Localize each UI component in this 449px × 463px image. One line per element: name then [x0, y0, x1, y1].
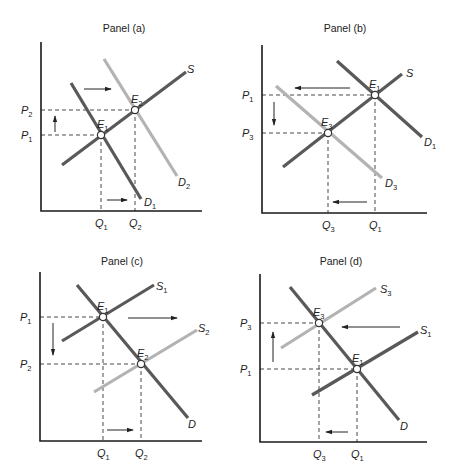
price-label: P2 [21, 104, 33, 119]
price-label: P3 [240, 317, 252, 332]
axes [40, 272, 202, 441]
price-label: P1 [240, 363, 252, 378]
price-label: P2 [20, 358, 32, 373]
quantity-label: Q2 [135, 447, 148, 462]
quantity-label: Q1 [351, 448, 364, 463]
curve-s1 [312, 332, 418, 395]
curve-label-s1: S1 [420, 324, 432, 339]
panel-c: Panel (c)S1S2DE1E2P1P2Q1Q2 [20, 255, 210, 462]
panel-title: Panel (c) [101, 255, 143, 267]
curve-label-d2: D2 [178, 176, 190, 191]
quantity-label: Q3 [322, 219, 335, 234]
quantity-label: Q3 [313, 448, 326, 463]
price-label: P1 [21, 129, 33, 144]
panel-a: Panel (a)SD1D2E1E2P2P1Q1Q2 [21, 22, 202, 232]
curve-s3 [281, 288, 376, 348]
panel-title: Panel (b) [324, 22, 367, 34]
price-label: P1 [242, 89, 254, 104]
quantity-label: Q1 [97, 447, 110, 462]
supply-demand-figure: Panel (a)SD1D2E1E2P2P1Q1Q2Panel (b)SD1D3… [0, 0, 449, 463]
curve-label-d1: D1 [144, 196, 156, 211]
curve-label-d1: D1 [424, 136, 436, 151]
curve-label-d: D [188, 418, 196, 430]
curve-label-s: S [187, 63, 195, 75]
curve-label-s2: S2 [198, 322, 210, 337]
price-label: P1 [20, 311, 32, 326]
axes [262, 45, 427, 213]
curve-s [62, 72, 186, 165]
quantity-label: Q1 [369, 219, 382, 234]
curve-label-s: S [406, 67, 414, 79]
quantity-label: Q2 [129, 217, 142, 232]
curve-d [77, 285, 188, 418]
price-label: P3 [242, 127, 254, 142]
panel-d: Panel (d)S3S1DE3E1P3P1Q3Q1 [240, 255, 432, 463]
panel-title: Panel (a) [103, 22, 146, 34]
four-panel-diagram: Panel (a)SD1D2E1E2P2P1Q1Q2Panel (b)SD1D3… [0, 0, 449, 463]
panel-title: Panel (d) [320, 255, 363, 267]
panel-b: Panel (b)SD1D3E1E3P1P3Q3Q1 [242, 22, 436, 234]
curve-label-d3: D3 [385, 177, 397, 192]
quantity-label: Q1 [95, 217, 108, 232]
curve-label-d: D [400, 420, 408, 432]
curve-label-s1: S1 [156, 280, 168, 295]
curve-label-s3: S3 [380, 283, 392, 298]
axes [260, 274, 427, 442]
